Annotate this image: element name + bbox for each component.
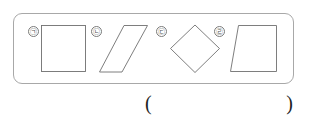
worksheet-figure: ㉠ ㉡ ㉢ ㉣ ( ) — [0, 0, 309, 123]
ordinal-label-3: ㉢ — [156, 26, 167, 37]
answer-blank[interactable] — [157, 94, 281, 114]
close-paren: ) — [286, 92, 293, 114]
answer-row: ( ) — [145, 92, 293, 116]
open-paren: ( — [145, 92, 152, 114]
shape-panel — [13, 13, 294, 84]
ordinal-label-2: ㉡ — [91, 26, 102, 37]
ordinal-label-1: ㉠ — [28, 26, 39, 37]
ordinal-label-4: ㉣ — [214, 26, 225, 37]
